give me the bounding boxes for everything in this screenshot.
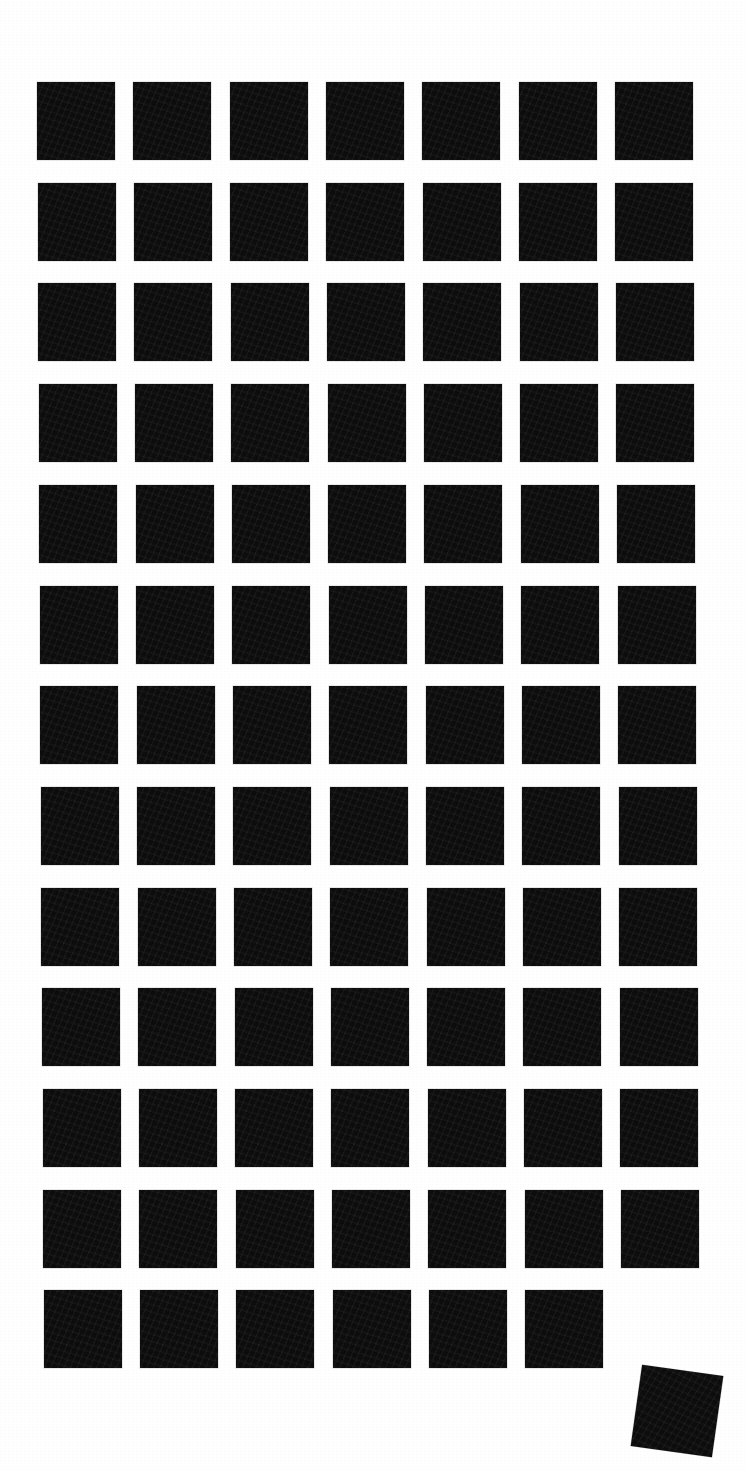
- grid-square: [139, 1190, 217, 1268]
- grid-square: [232, 485, 310, 563]
- grid-square: [332, 1190, 410, 1268]
- grid-square: [326, 183, 404, 261]
- grid-square: [617, 485, 695, 563]
- grid-square: [139, 1089, 217, 1167]
- grid-square: [44, 1290, 122, 1368]
- grid-square: [138, 888, 216, 966]
- grid-square: [329, 586, 407, 664]
- grid-square: [326, 82, 404, 160]
- grid-square: [620, 1089, 698, 1167]
- grid-square: [519, 183, 597, 261]
- grid-square: [236, 1290, 314, 1368]
- grid-square: [328, 384, 406, 462]
- grid-square: [137, 686, 215, 764]
- grid-square: [137, 787, 215, 865]
- grid-square: [620, 988, 698, 1066]
- grid-square: [330, 787, 408, 865]
- grid-square: [426, 686, 504, 764]
- grid-square: [524, 1089, 602, 1167]
- grid-square: [619, 787, 697, 865]
- grid-square: [233, 787, 311, 865]
- grid-square: [39, 384, 117, 462]
- grid-square: [427, 988, 505, 1066]
- grid-square: [521, 485, 599, 563]
- grid-square: [616, 384, 694, 462]
- grid-square: [136, 586, 214, 664]
- grid-square: [136, 485, 214, 563]
- grid-square: [41, 888, 119, 966]
- grid-square: [523, 888, 601, 966]
- grid-square: [43, 1089, 121, 1167]
- grid-square: [618, 686, 696, 764]
- grid-square: [519, 82, 597, 160]
- grid-square: [427, 888, 505, 966]
- grid-square: [331, 1089, 409, 1167]
- grid-square: [134, 183, 212, 261]
- grid-square: [618, 586, 696, 664]
- grid-square: [236, 1190, 314, 1268]
- grid-square: [38, 183, 116, 261]
- grid-square: [333, 1290, 411, 1368]
- grid-square: [38, 283, 116, 361]
- grid-square: [42, 988, 120, 1066]
- grid-square: [230, 183, 308, 261]
- grid-square: [138, 988, 216, 1066]
- grid-square: [423, 183, 501, 261]
- grid-square: [621, 1190, 699, 1268]
- grid-square: [423, 283, 501, 361]
- grid-square: [140, 1290, 218, 1368]
- grid-square: [43, 1190, 121, 1268]
- grid-square: [135, 384, 213, 462]
- grid-square: [235, 1089, 313, 1167]
- grid-square: [232, 586, 310, 664]
- rotated-square-marker: [631, 1365, 724, 1458]
- grid-square: [619, 888, 697, 966]
- grid-square: [41, 787, 119, 865]
- grid-square: [422, 82, 500, 160]
- grid-square: [40, 686, 118, 764]
- grid-square: [523, 988, 601, 1066]
- grid-square: [428, 1190, 506, 1268]
- grid-square: [520, 283, 598, 361]
- grid-square: [525, 1190, 603, 1268]
- grid-square: [327, 283, 405, 361]
- grid-square: [331, 988, 409, 1066]
- grid-square: [37, 82, 115, 160]
- grid-square: [328, 485, 406, 563]
- grid-square: [424, 384, 502, 462]
- grid-square: [525, 1290, 603, 1368]
- grid-square: [428, 1089, 506, 1167]
- calibration-target-page: [0, 0, 745, 1470]
- grid-square: [615, 183, 693, 261]
- grid-square: [522, 686, 600, 764]
- grid-square: [426, 787, 504, 865]
- grid-square: [520, 384, 598, 462]
- grid-square: [616, 283, 694, 361]
- grid-square: [233, 686, 311, 764]
- grid-square: [133, 82, 211, 160]
- grid-square: [330, 888, 408, 966]
- grid-square: [134, 283, 212, 361]
- grid-square: [425, 586, 503, 664]
- grid-square: [230, 82, 308, 160]
- grid-square: [615, 82, 693, 160]
- grid-square: [39, 485, 117, 563]
- grid-square: [522, 787, 600, 865]
- grid-square: [231, 283, 309, 361]
- grid-square: [424, 485, 502, 563]
- grid-square: [231, 384, 309, 462]
- grid-square: [329, 686, 407, 764]
- grid-square: [235, 988, 313, 1066]
- grid-square: [234, 888, 312, 966]
- grid-square: [40, 586, 118, 664]
- grid-square: [429, 1290, 507, 1368]
- grid-square: [521, 586, 599, 664]
